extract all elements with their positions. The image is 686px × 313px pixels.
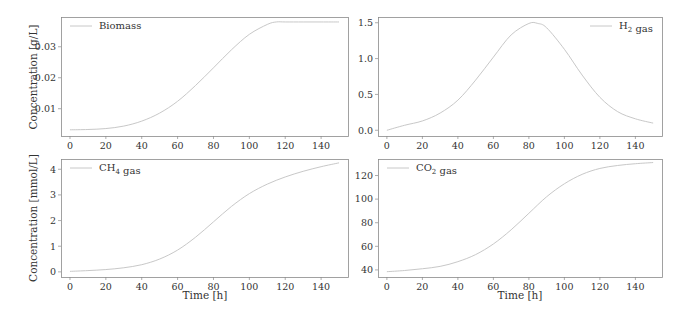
y-tick-label: 1.0 xyxy=(358,53,373,64)
chart-panel-bottom-right: 020406080100120140406080100120CO2 gas xyxy=(355,160,663,293)
chart-panel-bottom-left: 02040608010012014001234CH4 gas xyxy=(50,160,349,293)
x-tick-label: 0 xyxy=(67,281,73,292)
y-axis-label-top: Concentration [g/L] xyxy=(27,25,39,130)
y-tick-label: 2 xyxy=(50,215,56,226)
y-tick-label: 4 xyxy=(50,164,56,175)
x-tick-label: 120 xyxy=(276,140,294,151)
x-tick-label: 40 xyxy=(452,281,464,292)
x-tick-label: 100 xyxy=(240,281,258,292)
y-tick-label: 120 xyxy=(355,170,373,181)
x-tick-label: 0 xyxy=(384,140,390,151)
x-tick-label: 100 xyxy=(555,140,573,151)
x-tick-label: 20 xyxy=(416,281,428,292)
x-tick-label: 80 xyxy=(207,140,219,151)
y-tick-label: 1.5 xyxy=(358,17,373,28)
y-tick-label: 3 xyxy=(50,189,56,200)
plot-frame xyxy=(62,160,349,278)
x-tick-label: 40 xyxy=(452,140,464,151)
x-tick-label: 60 xyxy=(487,140,499,151)
y-tick-label: 80 xyxy=(361,217,373,228)
y-tick-label: 100 xyxy=(355,193,373,204)
y-axis-label-bottom: Concentration [mmol/L] xyxy=(27,154,39,282)
x-tick-label: 140 xyxy=(312,140,330,151)
x-tick-label: 100 xyxy=(240,140,258,151)
chart-panel-top-right: 0204060801001201400.00.51.01.5H2 gas xyxy=(358,17,663,151)
x-tick-label: 100 xyxy=(555,281,573,292)
x-tick-label: 140 xyxy=(626,281,644,292)
x-tick-label: 40 xyxy=(136,140,148,151)
x-tick-label: 80 xyxy=(523,140,535,151)
y-tick-label: 0 xyxy=(50,266,56,277)
y-tick-label: 60 xyxy=(361,241,373,252)
x-tick-label: 140 xyxy=(312,281,330,292)
x-tick-label: 20 xyxy=(416,140,428,151)
legend-label: Biomass xyxy=(99,20,141,31)
x-tick-label: 40 xyxy=(136,281,148,292)
y-tick-label: 40 xyxy=(361,264,373,275)
x-tick-label: 20 xyxy=(100,140,112,151)
x-axis-label-right: Time [h] xyxy=(498,289,543,301)
x-axis-label-left: Time [h] xyxy=(183,289,228,301)
plot-frame xyxy=(379,18,663,137)
x-tick-label: 140 xyxy=(626,140,644,151)
plot-frame xyxy=(62,18,349,137)
y-tick-label: 0.5 xyxy=(358,89,373,100)
x-tick-label: 20 xyxy=(100,281,112,292)
figure: 0204060801001201400.010.020.03Biomass020… xyxy=(0,0,686,313)
x-tick-label: 120 xyxy=(591,281,609,292)
x-tick-label: 120 xyxy=(276,281,294,292)
x-tick-label: 120 xyxy=(591,140,609,151)
y-tick-label: 0.0 xyxy=(358,125,373,136)
plot-frame xyxy=(379,160,663,278)
x-tick-label: 0 xyxy=(67,140,73,151)
x-tick-label: 60 xyxy=(172,140,184,151)
x-tick-label: 0 xyxy=(384,281,390,292)
y-tick-label: 1 xyxy=(50,241,56,252)
chart-panel-top-left: 0204060801001201400.010.020.03Biomass xyxy=(35,18,349,152)
